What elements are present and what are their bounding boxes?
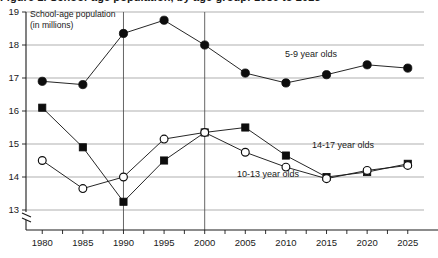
y-axis-labels-group: 19181716151413: [8, 6, 19, 215]
data-point-marker: [323, 175, 331, 183]
data-point-marker: [119, 29, 127, 37]
data-point-marker: [404, 162, 412, 170]
annotation-line-2: (in millions): [30, 20, 74, 30]
y-tick-label: 17: [8, 72, 19, 83]
data-point-marker: [363, 167, 371, 175]
data-point-marker: [363, 61, 371, 69]
data-point-marker: [120, 173, 128, 181]
data-point-marker: [79, 144, 86, 151]
data-point-marker: [160, 157, 167, 164]
x-tick-label: 2015: [316, 237, 337, 248]
x-tick-label: 2005: [235, 237, 256, 248]
data-point-marker: [241, 69, 249, 77]
y-tick-label: 14: [8, 171, 19, 182]
series-label-s1013: 10-13 year olds: [237, 169, 300, 179]
x-tick-label: 2020: [357, 237, 378, 248]
x-tick-label: 1990: [113, 237, 134, 248]
data-point-marker: [120, 198, 127, 205]
y-tick-label: 16: [8, 105, 19, 116]
gridlines-group: [22, 12, 424, 210]
data-point-marker: [79, 185, 87, 193]
data-point-marker: [38, 77, 46, 85]
x-tick-label: 1980: [32, 237, 53, 248]
x-tick-label: 2010: [275, 237, 296, 248]
chart-canvas: 19181716151413 1980198519901995200020052…: [0, 0, 438, 258]
x-axis-group: [26, 230, 438, 234]
y-tick-label: 18: [8, 39, 19, 50]
annotation-line-1: School-age population: [30, 9, 116, 19]
data-point-marker: [39, 104, 46, 111]
x-tick-label: 2025: [397, 237, 418, 248]
y-tick-label: 13: [8, 204, 19, 215]
y-tick-label: 15: [8, 138, 19, 149]
data-point-marker: [160, 16, 168, 24]
x-tick-label: 1995: [154, 237, 175, 248]
series-label-s1417: 14-17 year olds: [312, 140, 375, 150]
data-point-marker: [241, 148, 249, 156]
series-label-s59: 5-9 year olds: [285, 49, 338, 59]
data-point-marker: [404, 64, 412, 72]
data-point-marker: [160, 135, 168, 143]
data-point-marker: [282, 152, 289, 159]
data-point-marker: [322, 71, 330, 79]
x-tick-label: 2000: [194, 237, 215, 248]
data-point-marker: [282, 79, 290, 87]
series-line-filled-circle: [42, 20, 408, 84]
series-line-filled-square: [42, 108, 408, 202]
data-point-marker: [242, 124, 249, 131]
data-point-marker: [201, 41, 209, 49]
chart-figure: Figure 1. School-age population, by age …: [0, 0, 438, 258]
data-point-marker: [201, 129, 209, 137]
data-point-marker: [79, 81, 87, 89]
y-tick-label: 19: [8, 6, 19, 17]
x-tick-label: 1985: [72, 237, 93, 248]
x-axis-labels-group: 1980198519901995200020052010201520202025: [32, 237, 419, 248]
data-point-marker: [38, 157, 46, 165]
